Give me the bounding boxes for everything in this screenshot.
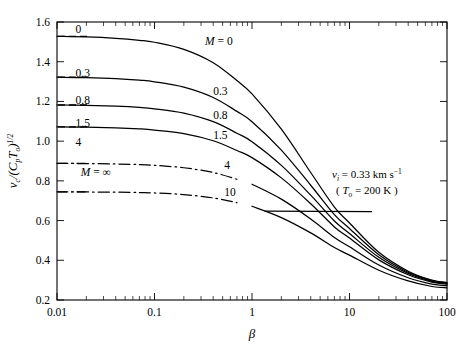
x-tick-label: 1 bbox=[249, 306, 255, 318]
curve-label-left: 0.3 bbox=[76, 67, 91, 79]
curve-label-left: 4 bbox=[76, 136, 82, 148]
plot-frame bbox=[57, 22, 447, 300]
curve-label-inner: 0.3 bbox=[213, 85, 228, 97]
y-tick-label: 1.0 bbox=[36, 135, 51, 147]
curve-label-left: 1.5 bbox=[76, 117, 91, 129]
curve-m-10-dashdot bbox=[57, 192, 237, 203]
curve-label-inner: 4 bbox=[224, 159, 230, 171]
y-tick-label: 1.2 bbox=[36, 95, 51, 107]
x-tick-label: 10 bbox=[344, 306, 356, 318]
chart-svg: 0.010.1110100 0.20.40.60.81.01.21.41.6 0… bbox=[0, 0, 468, 350]
x-axis-title: β bbox=[248, 326, 256, 341]
curve-label-inner: 0.8 bbox=[213, 109, 228, 121]
x-tick-label: 0.01 bbox=[47, 306, 67, 318]
curve-label-inner: 1.5 bbox=[213, 129, 228, 141]
curve-m-4 bbox=[252, 184, 447, 285]
data-curves bbox=[57, 36, 447, 288]
curve-label-left: M = ∞ bbox=[80, 166, 111, 178]
curve-label-left: 0.8 bbox=[76, 94, 91, 106]
y-tick-labels: 0.20.40.60.81.01.21.41.6 bbox=[36, 16, 51, 306]
figure-container: 0.010.1110100 0.20.40.60.81.01.21.41.6 0… bbox=[0, 0, 468, 350]
curve-m-1-5 bbox=[57, 127, 447, 284]
curve-label-inner: 10 bbox=[224, 186, 236, 198]
x-tick-label: 0.1 bbox=[147, 306, 162, 318]
y-tick-label: 0.2 bbox=[36, 294, 51, 306]
svg-text:vc/(CpTo)1/2: vc/(CpTo)1/2 bbox=[5, 134, 22, 189]
x-tick-labels: 0.010.1110100 bbox=[47, 306, 456, 318]
y-axis-title: vc/(CpTo)1/2 bbox=[5, 134, 22, 189]
curve-label-left: 0 bbox=[76, 23, 82, 35]
annotation-velocity: vi = 0.33 km s−1 bbox=[332, 167, 402, 183]
annotation-temperature: ( To = 200 K ) bbox=[336, 184, 398, 199]
y-tick-label: 1.4 bbox=[36, 56, 51, 68]
y-tick-label: 0.8 bbox=[36, 175, 51, 187]
curve-labels: 00.30.81.54M = ∞M = 00.30.81.5410 bbox=[76, 23, 237, 198]
curve-label-inner: M = 0 bbox=[204, 35, 233, 47]
curve-m-0-3 bbox=[57, 77, 447, 283]
curve-m-0 bbox=[57, 36, 447, 282]
y-tick-label: 0.4 bbox=[36, 254, 51, 266]
axis-ticks bbox=[57, 22, 447, 300]
y-tick-label: 1.6 bbox=[36, 16, 51, 28]
y-tick-label: 0.6 bbox=[36, 215, 51, 227]
x-tick-label: 100 bbox=[438, 306, 456, 318]
